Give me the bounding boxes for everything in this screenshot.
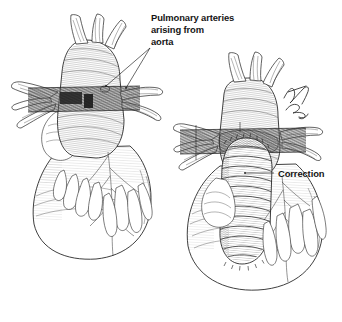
pulmonary-artery-band	[28, 86, 140, 112]
label-line-3: aorta	[151, 36, 174, 47]
illustration-root: Pulmonary arteries arising from aorta Co…	[0, 0, 342, 322]
correction-label: Correction	[278, 168, 325, 179]
label-line-1: Pulmonary arteries	[151, 12, 234, 23]
label-line-2: arising from	[151, 24, 204, 35]
anatomy-figure: Pulmonary arteries arising from aorta Co…	[0, 0, 342, 322]
correction-text: Correction	[278, 168, 325, 179]
band-shadow-b	[84, 94, 93, 108]
band-shadow-a	[60, 92, 82, 104]
